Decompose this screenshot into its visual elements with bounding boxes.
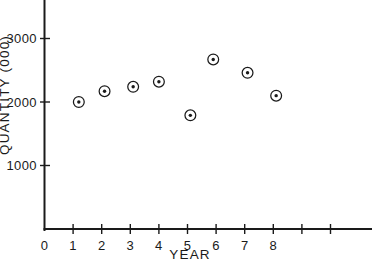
data-point <box>128 81 139 92</box>
x-axis-title: YEAR <box>169 247 211 262</box>
y-axis-title: QUANTITY (000) <box>0 35 12 155</box>
data-point-center-dot <box>103 90 106 93</box>
x-tick-label: 1 <box>69 238 77 253</box>
x-tick-label: 8 <box>269 238 277 253</box>
x-tick-label: 2 <box>98 238 106 253</box>
x-tick-label: 0 <box>41 238 49 253</box>
x-tick-label: 7 <box>241 238 249 253</box>
data-point <box>154 76 165 87</box>
x-tick-label: 4 <box>155 238 163 253</box>
data-point <box>271 90 282 101</box>
data-point <box>73 97 84 108</box>
data-point <box>208 54 219 65</box>
y-axis-ticks: 100020003000 <box>6 31 50 173</box>
scatter-chart: 100020003000 012345678 YEAR QUANTITY (00… <box>0 0 374 265</box>
data-point-center-dot <box>274 94 277 97</box>
data-point-group <box>73 54 281 121</box>
y-tick-label: 1000 <box>6 158 37 173</box>
data-point <box>242 67 253 78</box>
data-point <box>185 110 196 121</box>
data-point-center-dot <box>77 100 80 103</box>
data-point-center-dot <box>157 80 160 83</box>
plot-area: 100020003000 012345678 YEAR QUANTITY (00… <box>0 0 374 265</box>
x-tick-label: 6 <box>212 238 220 253</box>
x-tick-label: 3 <box>126 238 134 253</box>
data-point-center-dot <box>246 71 249 74</box>
data-point-center-dot <box>212 58 215 61</box>
data-point <box>99 86 110 97</box>
data-point-center-dot <box>131 85 134 88</box>
data-point-center-dot <box>189 114 192 117</box>
